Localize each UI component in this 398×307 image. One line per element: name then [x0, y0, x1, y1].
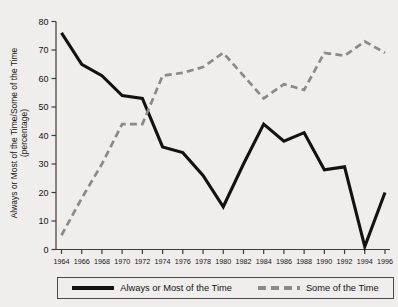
x-axis-tick-label: 1994: [357, 257, 373, 266]
y-axis-tick-label: 70: [38, 45, 48, 55]
legend-swatch-solid-icon: [72, 286, 114, 289]
x-axis-tick-label: 1964: [54, 257, 70, 266]
y-axis-tick-label: 0: [43, 245, 48, 255]
x-axis-tick-label: 1968: [94, 257, 110, 266]
x-axis-tick-label: 1970: [114, 257, 130, 266]
x-axis-tick-label: 1986: [276, 257, 292, 266]
x-axis-tick-label: 1982: [235, 257, 251, 266]
x-axis-tick-label: 1992: [337, 257, 353, 266]
y-axis-tick-label: 30: [38, 159, 48, 169]
legend-label-always-or-most-of-the-time: Always or Most of the Time: [120, 283, 232, 293]
y-axis-tick-label: 80: [38, 17, 48, 27]
x-axis-tick-label: 1972: [134, 257, 150, 266]
y-axis-tick-label: 20: [38, 188, 48, 198]
x-axis-tick-label: 1974: [155, 257, 171, 266]
x-axis-tick-label: 1980: [215, 257, 231, 266]
x-axis-tick-label: 1996: [377, 257, 393, 266]
legend-entry-some-of-the-time: Some of the Time: [258, 283, 379, 293]
y-axis-tick-label: 10: [38, 216, 48, 226]
y-axis-tick-label: 60: [38, 74, 48, 84]
x-axis-tick-label: 1978: [195, 257, 211, 266]
legend-label-some-of-the-time: Some of the Time: [306, 283, 379, 293]
x-axis-tick-label: 1988: [296, 257, 312, 266]
x-axis-tick-label: 1984: [256, 257, 272, 266]
plot-area: 0102030405060708019641966196819701972197…: [0, 0, 398, 275]
legend-entry-always-or-most-of-the-time: Always or Most of the Time: [72, 283, 232, 293]
x-axis-tick-label: 1966: [74, 257, 90, 266]
x-axis-tick-label: 1990: [316, 257, 332, 266]
y-axis-tick-label: 40: [38, 131, 48, 141]
chart-legend: Always or Most of the Time Some of the T…: [57, 277, 394, 299]
legend-swatch-dashed-icon: [258, 286, 300, 289]
y-axis-tick-label: 50: [38, 102, 48, 112]
series-line-always-or-most-of-the-time: [62, 33, 386, 247]
x-axis-tick-label: 1976: [175, 257, 191, 266]
chart-figure: Always or Most of the Time/Some of the T…: [0, 0, 398, 307]
